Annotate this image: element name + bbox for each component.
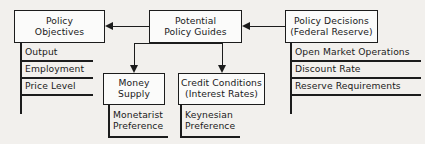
guides-branch-connector [134, 43, 223, 44]
monetarist-preference-line2: Preference [113, 120, 163, 131]
box-potential-policy-guides-line2: Policy Guides [164, 27, 226, 38]
monetarist-preference-label: Monetarist Preference [113, 109, 163, 131]
decision-item-reserve-requirements-underline [290, 94, 421, 96]
arrow-guides-to-money-supply-line [134, 43, 135, 65]
box-potential-policy-guides-line1: Potential [175, 16, 216, 27]
box-policy-decisions: Policy Decisions (Federal Reserve) [285, 10, 378, 43]
monetarist-preference-underline [108, 136, 168, 138]
keynesian-preference-spine [180, 105, 182, 137]
box-policy-objectives-line1: Policy [46, 16, 73, 27]
objective-item-employment-underline [20, 77, 93, 79]
objective-item-price-level-underline [20, 94, 93, 96]
monetarist-preference-spine [108, 105, 110, 137]
box-money-supply: Money Supply [103, 73, 165, 105]
box-money-supply-line2: Supply [118, 89, 150, 100]
box-credit-conditions-line2: (Interest Rates) [185, 89, 258, 100]
keynesian-preference-label: Keynesian Preference [185, 109, 235, 131]
objective-item-price-level-label: Price Level [25, 81, 76, 92]
box-policy-objectives-line2: Objectives [35, 27, 84, 38]
objective-item-employment-label: Employment [25, 64, 84, 75]
monetarist-preference-line1: Monetarist [113, 109, 163, 120]
decision-item-discount-rate-label: Discount Rate [295, 64, 361, 75]
arrow-guides-to-credit-conditions-head [218, 65, 226, 73]
arrow-decisions-to-guides-line [250, 26, 285, 27]
flow-diagram: Policy Objectives Potential Policy Guide… [0, 0, 425, 144]
objective-item-output-label: Output [25, 47, 58, 58]
box-credit-conditions: Credit Conditions (Interest Rates) [178, 73, 265, 105]
decision-item-discount-rate-underline [290, 77, 421, 79]
box-policy-objectives: Policy Objectives [14, 10, 105, 43]
arrow-guides-to-money-supply-head [130, 65, 138, 73]
keynesian-preference-underline [180, 136, 240, 138]
arrow-guides-to-objectives-line [113, 26, 149, 27]
decision-item-open-market-operations-label: Open Market Operations [295, 47, 410, 58]
arrow-guides-to-credit-conditions-line [222, 43, 223, 65]
decision-item-reserve-requirements-label: Reserve Requirements [295, 81, 401, 92]
objective-item-output-underline [20, 60, 93, 62]
keynesian-preference-line2: Preference [185, 120, 235, 131]
arrow-decisions-to-guides-head [242, 22, 250, 30]
box-potential-policy-guides: Potential Policy Guides [149, 10, 242, 43]
box-policy-decisions-line2: (Federal Reserve) [290, 27, 373, 38]
decision-item-open-market-operations-underline [290, 60, 421, 62]
keynesian-preference-line1: Keynesian [185, 109, 235, 120]
arrow-guides-to-objectives-head [105, 22, 113, 30]
box-policy-decisions-line1: Policy Decisions [294, 16, 369, 27]
